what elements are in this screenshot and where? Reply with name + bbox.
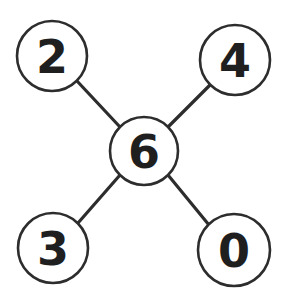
edge-center-to-top-right [168,84,211,127]
node-label-center: 6 [128,125,160,179]
node-label-top-left: 2 [36,30,68,84]
node-label-top-right: 4 [219,34,251,88]
node-top-right[interactable]: 4 [200,25,270,95]
node-label-bottom-left: 3 [37,222,69,276]
node-bottom-left[interactable]: 3 [18,213,88,283]
node-top-left[interactable]: 2 [17,21,87,91]
edge-center-to-top-left [77,81,120,127]
edge-center-to-bottom-right [168,175,209,225]
diagram-canvas: 2 4 6 3 0 [0,0,290,295]
node-bottom-right[interactable]: 0 [198,214,270,286]
node-center[interactable]: 6 [110,117,178,185]
node-label-bottom-right: 0 [218,224,250,278]
edge-center-to-bottom-left [78,175,120,223]
node-link-diagram: 2 4 6 3 0 [0,0,290,295]
